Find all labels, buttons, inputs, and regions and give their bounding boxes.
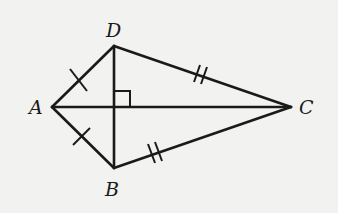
kite-diagram: D A C B	[0, 0, 338, 213]
right-angle-mark	[114, 91, 130, 107]
vertex-label-D: D	[105, 19, 121, 41]
diagonals	[52, 46, 291, 168]
vertex-label-B: B	[104, 178, 119, 200]
vertex-label-C: C	[299, 96, 314, 118]
segment-AB	[52, 107, 114, 168]
vertex-label-A: A	[27, 96, 43, 118]
segment-BC	[114, 107, 291, 168]
segment-DC	[114, 46, 291, 107]
segment-AD	[52, 46, 114, 107]
